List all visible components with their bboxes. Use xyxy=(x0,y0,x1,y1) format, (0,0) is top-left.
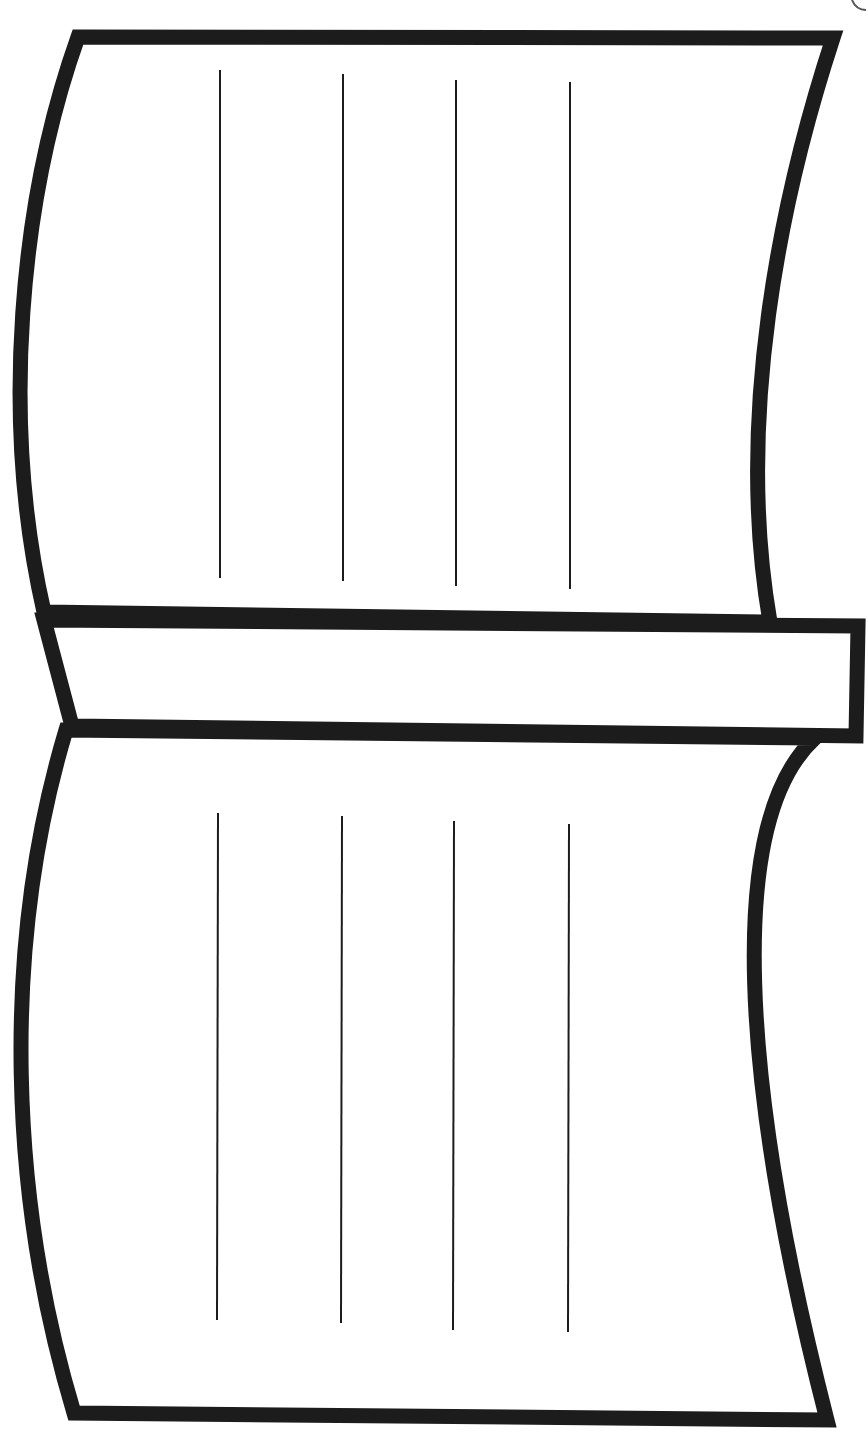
bottom-page-line xyxy=(568,824,569,1332)
corner-mark xyxy=(852,0,866,10)
book-spine xyxy=(44,620,858,736)
bottom-page-outline xyxy=(21,730,827,1420)
bottom-page-line xyxy=(217,813,218,1320)
bottom-page-line xyxy=(453,821,454,1330)
top-page-outline xyxy=(20,37,833,622)
bottom-page-line xyxy=(341,816,342,1323)
book-illustration xyxy=(0,0,868,1440)
